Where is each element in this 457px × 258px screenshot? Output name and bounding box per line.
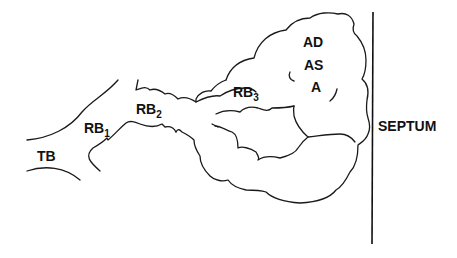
rb2-upper-wall <box>136 80 226 102</box>
label-ad: AD <box>303 34 323 50</box>
label-rb2: RB2 <box>136 101 162 120</box>
label-rb3: RB3 <box>233 84 259 103</box>
inner-wall-right <box>308 134 355 142</box>
septum-line <box>372 12 373 244</box>
alveolus-arc-right <box>330 89 337 101</box>
rb3-lower-contour <box>216 106 294 114</box>
tb-lower-wall <box>27 168 80 180</box>
inner-alveolar-ring <box>215 106 308 160</box>
label-septum: SEPTUM <box>378 118 436 134</box>
airway-diagram: TB RB1 RB2 RB3 AD AS A SEPTUM <box>0 0 457 258</box>
label-rb1: RB1 <box>84 120 110 139</box>
label-a: A <box>311 79 321 95</box>
alveolus-arc-left <box>289 72 294 81</box>
label-as: AS <box>304 57 323 73</box>
label-tb: TB <box>37 148 56 164</box>
